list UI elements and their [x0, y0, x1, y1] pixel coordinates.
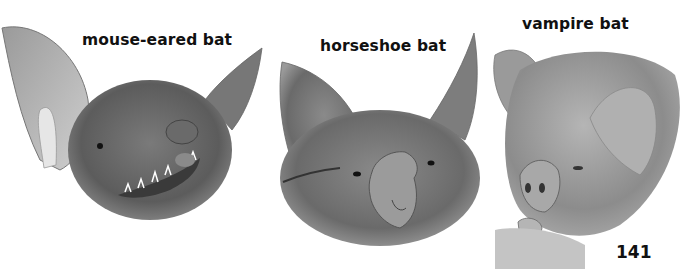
page-number: 141 [616, 242, 652, 262]
label-mouse-eared-bat: mouse-eared bat [82, 31, 232, 49]
horseshoe-bat-drawing [280, 33, 480, 246]
label-horseshoe-bat: horseshoe bat [320, 37, 446, 55]
mouse-eared-bat-drawing [2, 27, 262, 220]
book-page: mouse-eared bat horseshoe bat vampire ba… [0, 0, 685, 269]
vampire-bat-drawing [494, 50, 680, 269]
label-vampire-bat: vampire bat [522, 15, 629, 33]
